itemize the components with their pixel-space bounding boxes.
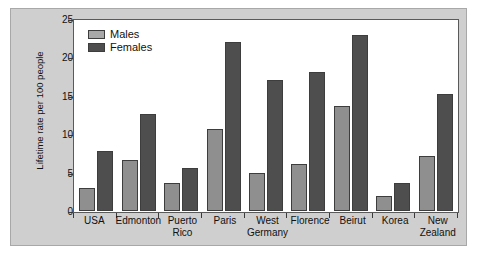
bar-females: [267, 80, 283, 211]
bar-females: [225, 42, 241, 211]
bar-males: [79, 188, 95, 211]
x-axis-label-line: Puerto: [161, 215, 204, 227]
legend-label-females: Females: [110, 42, 152, 53]
legend-item-females: Females: [88, 41, 152, 53]
x-axis-label: NewZealand: [416, 215, 459, 238]
chart-figure: Lifetime rate per 100 people 0510152025 …: [0, 0, 480, 256]
legend-swatch-females-icon: [88, 43, 105, 52]
legend-label-males: Males: [110, 29, 139, 40]
bar-males: [291, 164, 307, 211]
bar-males: [334, 106, 350, 211]
x-axis-label-line: New: [416, 215, 459, 227]
bar-females: [437, 94, 453, 212]
bar-males: [207, 129, 223, 211]
bar-group: [160, 21, 202, 211]
x-axis-label-line: Paris: [204, 215, 247, 227]
x-axis-label-line: Korea: [374, 215, 417, 227]
bar-females: [309, 72, 325, 211]
x-axis-label: Edmonton: [116, 215, 162, 238]
chart-panel: Lifetime rate per 100 people 0510152025 …: [10, 8, 467, 246]
legend-item-males: Males: [88, 28, 152, 40]
x-axis-label: Paris: [204, 215, 247, 238]
x-axis-label: Florence: [289, 215, 332, 238]
bar-group: [202, 21, 244, 211]
bar-group: [287, 21, 329, 211]
x-axis-label-line: Florence: [289, 215, 332, 227]
x-axis-label: Korea: [374, 215, 417, 238]
bar-males: [122, 160, 138, 211]
x-axis-label-line: West: [246, 215, 289, 227]
bar-group: [245, 21, 287, 211]
bar-males: [164, 183, 180, 211]
x-axis-label: PuertoRico: [161, 215, 204, 238]
x-axis-label-line: Edmonton: [116, 215, 162, 227]
legend-swatch-males-icon: [88, 30, 105, 39]
x-axis-label-line: Beirut: [331, 215, 374, 227]
bar-females: [97, 151, 113, 211]
x-axis-label-line: Germany: [246, 227, 289, 239]
y-axis-title: Lifetime rate per 100 people: [34, 26, 45, 196]
bar-group: [330, 21, 372, 211]
bar-females: [140, 114, 156, 211]
bar-group: [415, 21, 457, 211]
y-axis: 0510152025: [49, 19, 73, 213]
bar-females: [352, 35, 368, 211]
x-axis-label-line: USA: [73, 215, 116, 227]
x-axis-label-line: Rico: [161, 227, 204, 239]
chart-legend: Males Females: [88, 28, 152, 54]
x-axis-label: WestGermany: [246, 215, 289, 238]
bar-females: [182, 168, 198, 211]
x-axis-label-line: Zealand: [416, 227, 459, 239]
plot-area: Males Females: [73, 19, 459, 213]
x-axis-label: Beirut: [331, 215, 374, 238]
bar-males: [419, 156, 435, 211]
bar-females: [394, 183, 410, 211]
x-axis-labels: USAEdmontonPuertoRicoParisWestGermanyFlo…: [73, 215, 459, 238]
bar-group: [372, 21, 414, 211]
x-axis-label: USA: [73, 215, 116, 238]
bar-males: [376, 196, 392, 211]
bar-males: [249, 173, 265, 211]
